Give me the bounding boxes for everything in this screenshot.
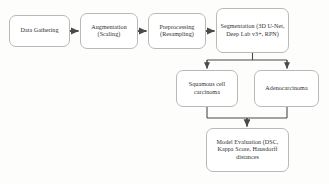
node-data-gathering-label: Data Gathering (12, 27, 67, 34)
node-preprocessing-label: Preprocessing (Resampling) (151, 24, 203, 38)
node-model-evaluation-label: Model Evaluation (DSC, Kappa Score, Haus… (209, 139, 286, 161)
connector-carcinoma-merge-to-evaluation (207, 107, 287, 127)
node-squamous-cell-carcinoma-label: Squamous cell carcinoma (179, 81, 235, 95)
node-adenocarcinoma[interactable]: Adenocarcinoma (254, 70, 319, 107)
node-segmentation-label: Segmentation (3D U-Net, Deep Lab v3+, RP… (219, 23, 286, 37)
node-adenocarcinoma-label: Adenocarcinoma (257, 85, 316, 92)
node-augmentation[interactable]: Augmentation (Scaling) (80, 13, 138, 49)
flowchart-diagram: Data Gathering Augmentation (Scaling) Pr… (0, 0, 329, 184)
node-augmentation-label: Augmentation (Scaling) (83, 24, 135, 38)
node-squamous-cell-carcinoma[interactable]: Squamous cell carcinoma (176, 70, 238, 107)
node-data-gathering[interactable]: Data Gathering (9, 15, 70, 47)
node-segmentation[interactable]: Segmentation (3D U-Net, Deep Lab v3+, RP… (216, 8, 289, 53)
node-preprocessing[interactable]: Preprocessing (Resampling) (148, 13, 206, 49)
node-model-evaluation[interactable]: Model Evaluation (DSC, Kappa Score, Haus… (206, 128, 289, 172)
connector-segmentation-split (207, 53, 287, 69)
